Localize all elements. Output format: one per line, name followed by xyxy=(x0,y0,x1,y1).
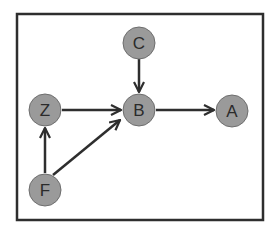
edge-f-to-b xyxy=(53,120,120,175)
node-label: F xyxy=(40,181,50,200)
node-b: B xyxy=(123,94,155,126)
node-label: C xyxy=(133,34,145,53)
node-f: F xyxy=(29,174,61,206)
node-z: Z xyxy=(29,94,61,126)
node-c: C xyxy=(123,27,155,59)
node-a: A xyxy=(216,95,248,127)
node-label: B xyxy=(133,101,144,120)
node-label: A xyxy=(226,102,238,121)
graph-canvas: C Z B A F xyxy=(0,0,276,233)
node-label: Z xyxy=(40,101,50,120)
